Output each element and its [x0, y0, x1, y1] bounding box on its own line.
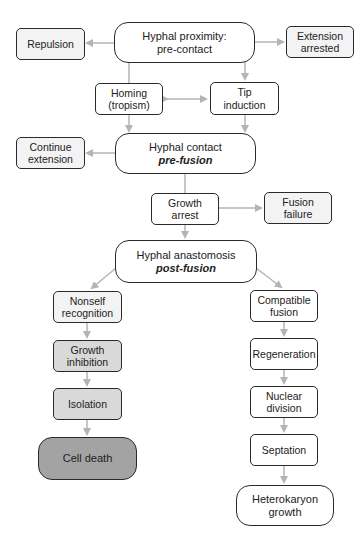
- node-growth-arrest: Growth arrest: [151, 193, 219, 225]
- node-label: (tropism): [108, 99, 149, 112]
- arrow-anastomosis-compatible: [256, 268, 281, 287]
- node-hyphal-contact: Hyphal contact pre-fusion: [115, 133, 256, 174]
- node-label: inhibition: [67, 356, 108, 369]
- node-sublabel: post-fusion: [156, 262, 216, 275]
- node-label: extension: [28, 153, 73, 166]
- node-label: Nuclear: [266, 390, 302, 403]
- node-fusion-failure: Fusion failure: [264, 192, 332, 224]
- node-extension-arrested: Extension arrested: [286, 26, 354, 58]
- node-nonself-recognition: Nonself recognition: [53, 291, 122, 323]
- node-label: Repulsion: [27, 38, 74, 51]
- node-label: induction: [223, 99, 265, 112]
- node-homing: Homing (tropism): [95, 83, 163, 115]
- node-label: Nonself: [70, 295, 106, 308]
- node-label: growth: [268, 506, 301, 519]
- node-label: arrested: [301, 42, 340, 55]
- node-tip-induction: Tip induction: [210, 82, 279, 115]
- node-hyphal-anastomosis: Hyphal anastomosis post-fusion: [115, 240, 257, 283]
- node-label: fusion: [270, 306, 298, 319]
- node-label: division: [266, 402, 301, 415]
- node-label: Hyphal proximity:: [142, 30, 226, 43]
- node-label: Fusion: [282, 196, 314, 209]
- node-label: Heterokaryon: [252, 493, 318, 506]
- node-label: Homing: [111, 87, 147, 100]
- arrow-anastomosis-nonself: [92, 268, 116, 288]
- node-compatible-fusion: Compatible fusion: [250, 290, 318, 322]
- node-label: Growth: [71, 344, 105, 357]
- node-nuclear-division: Nuclear division: [250, 386, 318, 418]
- node-sublabel: pre-fusion: [159, 154, 213, 167]
- node-label: Hyphal contact: [149, 141, 222, 154]
- node-label: Cell death: [63, 452, 113, 465]
- node-label: Septation: [262, 444, 306, 457]
- node-label: arrest: [172, 209, 199, 222]
- node-septation: Septation: [250, 434, 318, 466]
- node-label: Extension: [297, 30, 343, 43]
- node-label: Regeneration: [252, 348, 315, 361]
- node-heterokaryon-growth: Heterokaryon growth: [236, 485, 334, 526]
- node-continue-extension: Continue extension: [16, 137, 85, 169]
- node-label: recognition: [62, 307, 113, 320]
- node-label: Tip: [237, 86, 251, 99]
- node-label: failure: [284, 208, 313, 221]
- node-label: pre-contact: [157, 43, 212, 56]
- node-label: Hyphal anastomosis: [136, 249, 235, 262]
- node-repulsion: Repulsion: [16, 28, 85, 60]
- node-isolation: Isolation: [53, 388, 122, 420]
- node-hyphal-proximity: Hyphal proximity: pre-contact: [114, 22, 255, 63]
- node-growth-inhibition: Growth inhibition: [53, 340, 122, 372]
- node-label: Isolation: [68, 398, 107, 411]
- node-label: Growth: [168, 197, 202, 210]
- node-label: Continue: [29, 141, 71, 154]
- node-cell-death: Cell death: [38, 437, 137, 480]
- node-regeneration: Regeneration: [250, 338, 318, 370]
- node-label: Compatible: [257, 294, 310, 307]
